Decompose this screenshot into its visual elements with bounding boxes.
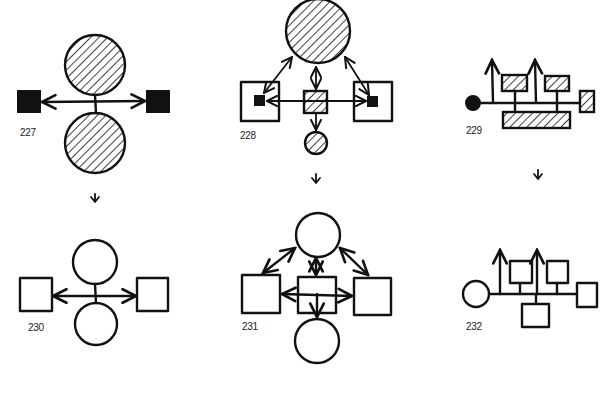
square-2	[547, 261, 568, 283]
hatched-box-long	[503, 112, 570, 128]
figure-label-228: 228	[240, 130, 256, 141]
black-square-right	[147, 91, 169, 112]
black-square-small-right	[368, 97, 377, 106]
figure-label-227: 227	[20, 127, 36, 138]
black-square-small-left	[255, 96, 264, 105]
transition-arrows	[91, 170, 542, 202]
down-arrow-icon	[91, 194, 99, 202]
hatched-box-1	[502, 75, 527, 91]
hatched-box-end	[580, 91, 594, 112]
axis-vertical	[95, 95, 96, 113]
square-end	[577, 283, 597, 307]
figure-label-230: 230	[28, 322, 44, 333]
arrow-up-2	[535, 60, 536, 103]
arrow-up-1	[492, 60, 493, 103]
figure-label-232: 232	[466, 321, 482, 332]
square-right	[354, 278, 391, 315]
hatched-circle-bottom	[65, 113, 125, 173]
figure-229	[466, 60, 594, 128]
square-right	[137, 278, 168, 311]
circle-top	[296, 213, 340, 257]
down-arrow-icon	[534, 170, 542, 179]
diagram-canvas	[0, 0, 602, 420]
hatched-circle-top	[65, 35, 125, 95]
square-1	[510, 261, 532, 283]
figure-232	[463, 250, 597, 327]
hatched-circle-large	[286, 0, 350, 63]
axis-vertical	[95, 284, 96, 303]
hatched-circle-small	[305, 132, 327, 154]
circle-bottom	[75, 303, 117, 345]
circle-bottom	[295, 319, 339, 363]
arrow-circle-to-right	[340, 248, 368, 275]
double-arrow-horizontal	[42, 101, 145, 102]
down-arrow-icon	[312, 174, 320, 183]
hatched-box-2	[545, 76, 569, 91]
black-square-left	[18, 91, 40, 112]
circle-start	[463, 281, 489, 307]
figure-231	[242, 213, 391, 363]
hatched-square-center	[304, 91, 327, 113]
figure-label-229: 229	[466, 125, 482, 136]
square-left	[242, 275, 280, 313]
square-below	[522, 304, 549, 327]
figure-label-231: 231	[242, 321, 258, 332]
arrow-circle-to-left	[263, 248, 295, 273]
black-dot	[466, 96, 480, 110]
square-left	[20, 278, 52, 311]
circle-top	[73, 240, 117, 284]
arrow-circle-to-right	[345, 57, 369, 95]
figure-227	[18, 35, 169, 173]
figure-228	[241, 0, 392, 154]
